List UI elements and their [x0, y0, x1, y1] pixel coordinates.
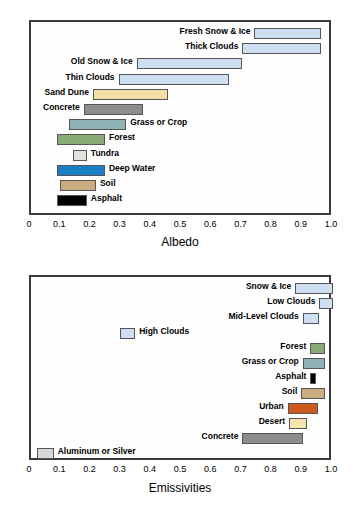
- bar: [57, 134, 105, 145]
- bar-row: Tundra: [73, 150, 87, 161]
- bar-row: Snow & Ice: [295, 283, 333, 294]
- bar-row: Desert: [289, 418, 307, 429]
- bar-row: Forest: [57, 134, 105, 145]
- bar-row: Grass or Crop: [303, 358, 326, 369]
- bar-label: Mid-Level Clouds: [228, 311, 298, 322]
- bar: [303, 313, 320, 324]
- bar-label: Fresh Snow & Ice: [180, 26, 251, 37]
- x-tick-label: 0.3: [113, 219, 126, 229]
- bar: [310, 343, 325, 354]
- albedo-x-axis: 00.10.20.30.40.50.60.70.80.91.0: [29, 219, 331, 235]
- bar: [303, 358, 326, 369]
- bar: [120, 328, 135, 339]
- x-tick-label: 0.4: [144, 219, 157, 229]
- bar-label: Old Snow & Ice: [71, 56, 133, 67]
- emissivities-plot-frame: Snow & IceLow CloudsMid-Level CloudsHigh…: [29, 275, 331, 460]
- emissivities-x-axis: 00.10.20.30.40.50.60.70.80.91.0: [29, 464, 331, 480]
- x-tick-label: 0.4: [144, 464, 157, 474]
- bar: [37, 448, 54, 459]
- bar-row: Thin Clouds: [119, 74, 229, 85]
- bar: [242, 433, 302, 444]
- bar-label: Tundra: [91, 148, 119, 159]
- bar-row: Grass or Crop: [69, 119, 126, 130]
- albedo-axis-title: Albedo: [29, 235, 331, 249]
- bar-row: High Clouds: [120, 328, 135, 339]
- bar: [84, 104, 143, 115]
- bar: [288, 403, 318, 414]
- x-tick-label: 0: [26, 464, 31, 474]
- bar: [242, 43, 321, 54]
- bar-label: Soil: [100, 178, 116, 189]
- albedo-plot-frame: Fresh Snow & IceThick CloudsOld Snow & I…: [29, 20, 331, 215]
- bar-label: Asphalt: [275, 371, 306, 382]
- bar-row: Asphalt: [310, 373, 316, 384]
- x-tick-label: 0.9: [295, 219, 308, 229]
- bar-row: Fresh Snow & Ice: [254, 28, 320, 39]
- bar-label: Desert: [259, 416, 285, 427]
- bar: [57, 165, 105, 176]
- x-tick-label: 1.0: [325, 219, 338, 229]
- x-tick-label: 0.6: [204, 219, 217, 229]
- bar-row: Concrete: [84, 104, 143, 115]
- bar: [73, 150, 87, 161]
- bar-label: Concrete: [202, 431, 239, 442]
- bar-row: Urban: [288, 403, 318, 414]
- x-tick-label: 0.2: [83, 219, 96, 229]
- bar: [301, 388, 325, 399]
- bar-row: Sand Dune: [93, 89, 169, 100]
- bar-row: Concrete: [242, 433, 302, 444]
- bar-row: Thick Clouds: [242, 43, 321, 54]
- bar-row: Old Snow & Ice: [137, 58, 243, 69]
- bar-label: Sand Dune: [45, 87, 89, 98]
- x-tick-label: 0.2: [83, 464, 96, 474]
- bar: [137, 58, 243, 69]
- bar-label: Soil: [282, 386, 298, 397]
- bar-row: Soil: [301, 388, 325, 399]
- bar: [60, 180, 96, 191]
- x-tick-label: 0.5: [174, 464, 187, 474]
- bar: [119, 74, 229, 85]
- x-tick-label: 0.7: [234, 219, 247, 229]
- bar-label: Urban: [259, 401, 284, 412]
- bar-label: Forest: [280, 341, 306, 352]
- bar: [289, 418, 307, 429]
- bar-row: Mid-Level Clouds: [303, 313, 320, 324]
- x-tick-label: 0.3: [113, 464, 126, 474]
- x-tick-label: 0.6: [204, 464, 217, 474]
- emissivities-axis-title: Emissivities: [29, 481, 331, 495]
- bar-label: Grass or Crop: [130, 117, 187, 128]
- x-tick-label: 1.0: [325, 464, 338, 474]
- bar: [254, 28, 320, 39]
- bar-label: Snow & Ice: [246, 281, 291, 292]
- bar-row: Asphalt: [57, 195, 87, 206]
- bar-row: Deep Water: [57, 165, 105, 176]
- emissivities-chart: Snow & IceLow CloudsMid-Level CloudsHigh…: [0, 255, 351, 509]
- bar-label: High Clouds: [139, 326, 189, 337]
- bar: [310, 373, 316, 384]
- bar: [319, 298, 333, 309]
- bar: [295, 283, 333, 294]
- bar: [93, 89, 169, 100]
- albedo-chart: Fresh Snow & IceThick CloudsOld Snow & I…: [0, 0, 351, 255]
- x-tick-label: 0.9: [295, 464, 308, 474]
- bar-row: Soil: [60, 180, 96, 191]
- bar: [57, 195, 87, 206]
- bar-label: Forest: [109, 132, 135, 143]
- bar-row: Forest: [310, 343, 325, 354]
- x-tick-label: 0.1: [53, 219, 66, 229]
- bar-row: Low Clouds: [319, 298, 333, 309]
- x-tick-label: 0.8: [264, 219, 277, 229]
- bar-label: Low Clouds: [267, 296, 315, 307]
- x-tick-label: 0.8: [264, 464, 277, 474]
- x-tick-label: 0.1: [53, 464, 66, 474]
- x-tick-label: 0: [26, 219, 31, 229]
- bar-label: Aluminum or Silver: [58, 446, 136, 457]
- x-tick-label: 0.5: [174, 219, 187, 229]
- bar-label: Thin Clouds: [65, 72, 114, 83]
- bar-label: Thick Clouds: [185, 41, 238, 52]
- bar-row: Aluminum or Silver: [37, 448, 54, 459]
- bar-label: Grass or Crop: [242, 356, 299, 367]
- x-tick-label: 0.7: [234, 464, 247, 474]
- bar-label: Deep Water: [109, 163, 155, 174]
- bar-label: Asphalt: [91, 193, 122, 204]
